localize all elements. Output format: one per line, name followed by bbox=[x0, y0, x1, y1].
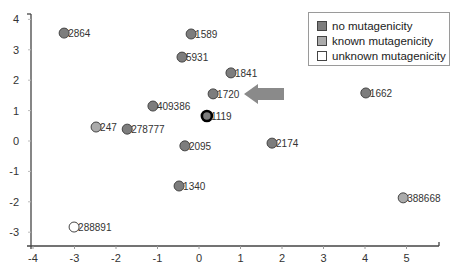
y-tick-label: 2 bbox=[13, 74, 19, 86]
point-label: 1589 bbox=[195, 29, 218, 40]
y-tick-label: 3 bbox=[13, 44, 19, 56]
data-point: 247 bbox=[91, 122, 117, 133]
data-point: 1589 bbox=[186, 29, 218, 40]
legend-swatch-light-gray bbox=[317, 36, 327, 46]
data-point: 1720 bbox=[208, 89, 240, 100]
point-label: 5931 bbox=[186, 52, 209, 63]
legend-item-unknown-mutagenicity: unknown mutagenicity bbox=[317, 48, 449, 63]
y-tick-label: -1 bbox=[9, 165, 19, 177]
data-point: 2095 bbox=[180, 141, 212, 152]
y-tick-label: 4 bbox=[13, 13, 19, 25]
data-point: 1340 bbox=[174, 181, 206, 192]
legend-item-known-mutagenicity: known mutagenicity bbox=[317, 33, 449, 48]
point-label: 2095 bbox=[189, 141, 212, 152]
data-point: 409386 bbox=[148, 101, 191, 112]
data-point: 388668 bbox=[398, 193, 441, 204]
left-arrow-icon bbox=[244, 84, 284, 104]
point-label: 288891 bbox=[78, 222, 112, 233]
point-label: 1841 bbox=[235, 68, 258, 79]
legend-swatch-white bbox=[317, 51, 327, 61]
point-label: 388668 bbox=[407, 193, 441, 204]
point-label: 247 bbox=[100, 122, 117, 133]
data-point: 1662 bbox=[361, 88, 393, 99]
point-label: 2174 bbox=[276, 138, 299, 149]
data-point: 1841 bbox=[226, 68, 258, 79]
point-label: 1340 bbox=[183, 181, 206, 192]
legend-item-no-mutagenicity: no mutagenicity bbox=[317, 18, 449, 33]
point-label: 278777 bbox=[131, 124, 165, 135]
point-label: 409386 bbox=[157, 101, 191, 112]
point-label: 1662 bbox=[370, 88, 393, 99]
x-tick-label: 4 bbox=[362, 252, 368, 264]
annotations bbox=[244, 84, 284, 104]
x-tick-label: -1 bbox=[153, 252, 163, 264]
data-point: 2864 bbox=[59, 28, 91, 39]
point-label: 1119 bbox=[211, 111, 232, 122]
x-tick-label: 3 bbox=[320, 252, 326, 264]
y-tick-label: 1 bbox=[13, 105, 19, 117]
legend-label: no mutagenicity bbox=[332, 20, 413, 32]
data-point: 5931 bbox=[177, 52, 209, 63]
point-label: 1720 bbox=[217, 89, 240, 100]
legend-label: known mutagenicity bbox=[332, 35, 433, 47]
x-tick-label: -3 bbox=[70, 252, 80, 264]
legend-label: unknown mutagenicity bbox=[332, 50, 446, 62]
x-tick-label: -4 bbox=[28, 252, 38, 264]
data-point: 2174 bbox=[267, 138, 299, 149]
x-tick-label: 5 bbox=[403, 252, 409, 264]
data-point: 278777 bbox=[122, 124, 165, 135]
x-tick-label: 2 bbox=[279, 252, 285, 264]
x-tick-label: 0 bbox=[196, 252, 202, 264]
y-tick-label: -2 bbox=[9, 196, 19, 208]
data-point: 288891 bbox=[69, 222, 112, 233]
x-tick-label: -2 bbox=[111, 252, 121, 264]
x-tick-label: 1 bbox=[237, 252, 243, 264]
legend: no mutagenicity known mutagenicity unkno… bbox=[308, 12, 450, 66]
point-label: 2864 bbox=[68, 28, 91, 39]
y-tick-label: -3 bbox=[9, 226, 19, 238]
legend-swatch-dark-gray bbox=[317, 21, 327, 31]
data-point: 1119 bbox=[202, 111, 232, 122]
y-tick-label: 0 bbox=[13, 135, 19, 147]
